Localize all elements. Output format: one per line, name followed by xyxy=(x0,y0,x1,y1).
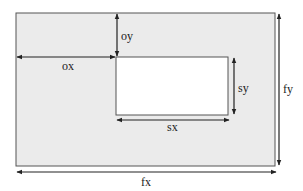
sx-label: sx xyxy=(167,120,178,134)
oy-label: oy xyxy=(121,29,133,43)
inner-rectangle xyxy=(116,57,228,115)
ox-label: ox xyxy=(62,59,74,73)
fx-label: fx xyxy=(141,175,151,189)
fx-dimension: fx xyxy=(17,172,276,189)
fy-dimension: fy xyxy=(279,14,293,165)
sy-label: sy xyxy=(238,81,249,95)
fy-label: fy xyxy=(283,82,293,96)
dimension-diagram: ox oy sx sy fx fy xyxy=(0,0,303,191)
